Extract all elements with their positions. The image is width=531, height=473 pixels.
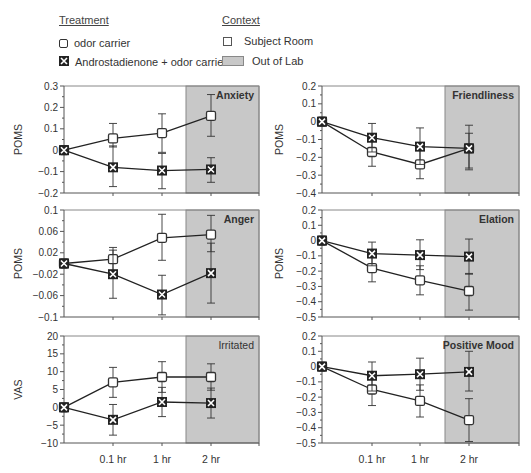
x-square-marker-icon <box>157 290 167 300</box>
y-axis-label: POMS <box>273 248 285 279</box>
open-square-marker-icon <box>465 416 474 425</box>
chart-grid: −0.2−0.100.10.20.3POMSAnxiety−0.4−0.3−0.… <box>0 0 531 473</box>
y-tick-label: −0.4 <box>296 188 316 199</box>
open-square-marker-icon <box>158 233 167 242</box>
x-tick-label: 1 hr <box>153 453 172 465</box>
y-axis-label: POMS <box>12 248 24 279</box>
y-tick-label: −0.3 <box>296 281 316 292</box>
y-tick-label: 0.2 <box>302 331 316 342</box>
x-square-marker-icon <box>415 142 425 152</box>
out-of-lab-region <box>186 86 259 193</box>
chart-panel-positive-mood: −0.5−0.4−0.3−0.2−0.100.10.2Positive Mood… <box>296 331 519 466</box>
y-tick-label: −0.1 <box>38 312 58 323</box>
x-tick-label: 0.1 hr <box>100 453 127 465</box>
x-square-marker-icon <box>206 398 216 408</box>
y-tick-label: −0.4 <box>296 296 316 307</box>
y-tick-label: −0.1 <box>296 250 316 261</box>
y-tick-label: 0.3 <box>44 81 58 92</box>
y-tick-label: −0.1 <box>296 376 316 387</box>
x-tick-label: 1 hr <box>411 453 430 465</box>
y-tick-label: 10 <box>47 366 59 377</box>
x-square-marker-icon <box>317 236 327 246</box>
panel-title: Elation <box>479 213 514 225</box>
y-tick-label: −0.5 <box>296 312 316 323</box>
y-tick-label: −0.2 <box>38 188 58 199</box>
x-square-marker-icon <box>206 268 216 278</box>
x-square-marker-icon <box>367 133 377 143</box>
y-tick-label: −0.1 <box>296 134 316 145</box>
y-tick-label: 0 <box>310 235 316 246</box>
y-tick-label: 15 <box>47 348 59 359</box>
y-tick-label: −0.1 <box>38 166 58 177</box>
y-tick-label: 0.1 <box>44 205 58 216</box>
y-tick-label: 0.2 <box>302 205 316 216</box>
x-square-marker-icon <box>317 362 327 372</box>
panel-title: Anger <box>224 213 254 225</box>
x-square-marker-icon <box>367 371 377 381</box>
panel-title: Positive Mood <box>443 339 514 351</box>
y-tick-label: −0.02 <box>33 269 59 280</box>
y-tick-label: 20 <box>47 331 59 342</box>
y-axis-label: POMS <box>12 124 24 155</box>
open-square-marker-icon <box>109 134 118 143</box>
out-of-lab-region <box>445 86 519 193</box>
chart-panel-anxiety: −0.2−0.100.10.20.3POMSAnxiety <box>12 81 259 199</box>
y-tick-label: −0.3 <box>296 407 316 418</box>
y-tick-label: −0.2 <box>296 152 316 163</box>
y-tick-label: 0.2 <box>302 81 316 92</box>
x-square-marker-icon <box>59 402 69 412</box>
x-tick-label: 0.1 hr <box>359 453 386 465</box>
x-tick-label: 2 hr <box>202 453 221 465</box>
y-tick-label: −10 <box>41 438 58 449</box>
y-tick-label: 0 <box>52 402 58 413</box>
y-tick-label: −0.2 <box>296 392 316 403</box>
chart-panel-friendliness: −0.4−0.3−0.2−0.100.10.2POMSFriendliness <box>273 81 519 199</box>
open-square-marker-icon <box>158 129 167 138</box>
open-square-marker-icon <box>416 276 425 285</box>
x-square-marker-icon <box>317 117 327 127</box>
panel-title: Irritated <box>218 339 254 351</box>
y-tick-label: 0.06 <box>39 226 59 237</box>
x-square-marker-icon <box>415 369 425 379</box>
y-tick-label: 5 <box>52 384 58 395</box>
x-square-marker-icon <box>108 162 118 172</box>
chart-panel-anger: −0.1−0.06−0.020.020.060.1POMSAnger <box>12 205 259 323</box>
y-tick-label: 0.1 <box>302 220 316 231</box>
panel-title: Anxiety <box>216 89 254 101</box>
y-axis-label: POMS <box>273 124 285 155</box>
y-tick-label: −0.06 <box>33 290 59 301</box>
open-square-marker-icon <box>207 111 216 120</box>
chart-panel-elation: −0.5−0.4−0.3−0.2−0.100.10.2POMSElation <box>273 205 519 323</box>
x-square-marker-icon <box>157 397 167 407</box>
x-square-marker-icon <box>206 164 216 174</box>
y-tick-label: 0.1 <box>302 98 316 109</box>
chart-panel-irritated: −10−505101520VASIrritated0.1 hr1 hr2 hr <box>12 331 259 466</box>
x-square-marker-icon <box>157 166 167 176</box>
x-square-marker-icon <box>464 367 474 377</box>
y-tick-label: 0.1 <box>302 346 316 357</box>
open-square-marker-icon <box>207 373 216 382</box>
y-tick-label: 0.2 <box>44 102 58 113</box>
x-square-marker-icon <box>464 252 474 262</box>
y-tick-label: 0 <box>310 116 316 127</box>
y-tick-label: 0 <box>310 361 316 372</box>
x-square-marker-icon <box>59 259 69 269</box>
panel-title: Friendliness <box>452 89 514 101</box>
y-axis-label: VAS <box>12 379 24 399</box>
open-square-marker-icon <box>416 396 425 405</box>
open-square-marker-icon <box>109 378 118 387</box>
x-square-marker-icon <box>108 415 118 425</box>
x-tick-label: 2 hr <box>460 453 479 465</box>
x-square-marker-icon <box>367 249 377 259</box>
out-of-lab-region <box>186 210 259 317</box>
out-of-lab-region <box>186 336 259 443</box>
open-square-marker-icon <box>465 287 474 296</box>
y-tick-label: −0.3 <box>296 170 316 181</box>
y-tick-label: 0.02 <box>39 247 59 258</box>
y-tick-label: −5 <box>47 420 59 431</box>
x-square-marker-icon <box>464 143 474 153</box>
x-square-marker-icon <box>108 269 118 279</box>
y-tick-label: −0.2 <box>296 266 316 277</box>
x-square-marker-icon <box>415 250 425 260</box>
x-square-marker-icon <box>59 145 69 155</box>
